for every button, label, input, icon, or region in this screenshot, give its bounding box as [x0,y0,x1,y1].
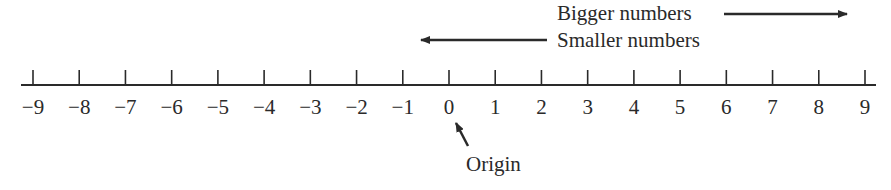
tick-label: −1 [383,97,423,118]
tick-label: −7 [105,97,145,118]
tick-label: 9 [845,97,885,118]
origin-label: Origin [466,154,521,175]
tick-label: −9 [13,97,53,118]
smaller-numbers-label: Smaller numbers [557,30,700,51]
origin-pointer-icon [456,123,468,146]
tick-label: 2 [521,97,561,118]
tick-label: 3 [568,97,608,118]
tick-label: 6 [706,97,746,118]
tick-label: 8 [799,97,839,118]
tick-label: 1 [475,97,515,118]
tick-marks [33,70,865,85]
tick-label: 5 [660,97,700,118]
tick-label: −2 [337,97,377,118]
bigger-numbers-label: Bigger numbers [557,3,692,24]
tick-label: 7 [753,97,793,118]
tick-label: 4 [614,97,654,118]
tick-label: −8 [59,97,99,118]
tick-label: −4 [244,97,284,118]
tick-label: −6 [152,97,192,118]
number-line-diagram: −9−8−7−6−5−4−3−2−10123456789 Bigger numb… [0,0,891,190]
tick-label: −3 [290,97,330,118]
tick-label: −5 [198,97,238,118]
tick-label: 0 [429,97,469,118]
